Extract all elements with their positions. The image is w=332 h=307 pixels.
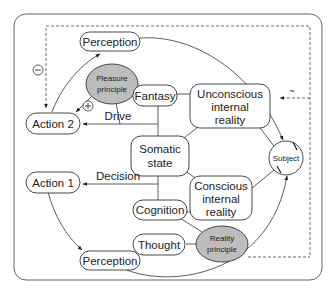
svg-text:Subject: Subject xyxy=(273,154,300,163)
label-tilde: ~ xyxy=(289,86,294,96)
plus-sign xyxy=(83,101,93,111)
svg-text:reality: reality xyxy=(215,114,246,126)
svg-text:Reality: Reality xyxy=(210,234,234,243)
node-action-1: Action 1 xyxy=(26,172,80,193)
node-conscious-internal-reality: Conscious internal reality xyxy=(190,176,252,220)
label-drive: Drive xyxy=(105,110,132,122)
edge-conscious-subject xyxy=(252,170,274,188)
arc-action1-to-perception xyxy=(48,192,82,250)
psychodynamic-diagram: Perception Pleasure principle Fantasy Un… xyxy=(0,0,332,307)
svg-text:Conscious: Conscious xyxy=(194,180,248,192)
svg-text:Pleasure: Pleasure xyxy=(96,74,128,83)
svg-text:principle: principle xyxy=(207,245,237,254)
svg-text:Action 2: Action 2 xyxy=(32,118,74,130)
minus-sign xyxy=(33,65,43,75)
svg-text:principle: principle xyxy=(97,85,127,94)
node-action-2: Action 2 xyxy=(26,113,80,134)
svg-text:Perception: Perception xyxy=(83,36,138,48)
svg-text:Action 1: Action 1 xyxy=(32,177,74,189)
node-cognition: Cognition xyxy=(133,200,187,220)
node-pleasure-principle: Pleasure principle xyxy=(86,64,138,104)
svg-text:Fantasy: Fantasy xyxy=(135,90,176,102)
edge-somatic-unconscious xyxy=(184,127,198,138)
label-decision: Decision xyxy=(96,170,140,182)
svg-text:Thought: Thought xyxy=(138,239,181,251)
node-thought: Thought xyxy=(133,234,185,255)
svg-text:reality: reality xyxy=(206,206,237,218)
node-fantasy: Fantasy xyxy=(133,85,177,106)
node-unconscious-internal-reality: Unconscious internal reality xyxy=(190,84,270,128)
svg-text:Cognition: Cognition xyxy=(136,204,185,216)
svg-text:internal: internal xyxy=(202,193,240,205)
node-perception-bottom: Perception xyxy=(80,251,140,270)
svg-text:internal: internal xyxy=(211,101,249,113)
svg-text:Unconscious: Unconscious xyxy=(197,88,263,100)
node-reality-principle: Reality principle xyxy=(196,226,248,262)
node-perception-top: Perception xyxy=(80,32,140,51)
svg-text:state: state xyxy=(148,157,173,169)
svg-text:Perception: Perception xyxy=(83,255,138,267)
edge-unconscious-subject xyxy=(260,128,274,146)
node-subject: Subject xyxy=(269,141,303,175)
svg-text:Somatic: Somatic xyxy=(139,143,181,155)
